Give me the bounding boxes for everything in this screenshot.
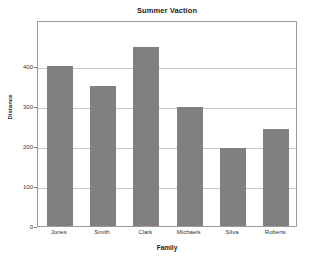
- bar-series: [38, 22, 296, 226]
- x-axis-tick-labels: JonesSmithClarkMichaelsSilvaRoberts: [37, 229, 297, 241]
- y-tick-label: 0: [30, 224, 33, 230]
- x-tick-label: Silva: [225, 229, 238, 235]
- x-tick-label: Smith: [94, 229, 109, 235]
- x-tick-label: Roberts: [265, 229, 286, 235]
- x-axis-label: Family: [37, 244, 297, 251]
- y-tick-label: 100: [23, 184, 33, 190]
- plot-area: [37, 21, 297, 227]
- bar: [47, 66, 73, 226]
- y-tick-label: 200: [23, 144, 33, 150]
- bar: [133, 47, 159, 226]
- y-axis-label: Distance: [7, 79, 13, 135]
- bar: [90, 86, 116, 226]
- x-tick-label: Michaels: [177, 229, 201, 235]
- chart-title: Summer Vaction: [37, 6, 297, 15]
- y-axis-tick-labels: 0100200300400: [0, 21, 37, 227]
- bar: [263, 129, 289, 226]
- x-tick-label: Jones: [51, 229, 67, 235]
- x-tick-label: Clark: [138, 229, 152, 235]
- bar: [220, 148, 246, 226]
- y-tick-label: 400: [23, 64, 33, 70]
- bar: [177, 107, 203, 226]
- y-tick-label: 300: [23, 104, 33, 110]
- chart-figure: Summer Vaction 0100200300400 Distance Jo…: [0, 0, 313, 271]
